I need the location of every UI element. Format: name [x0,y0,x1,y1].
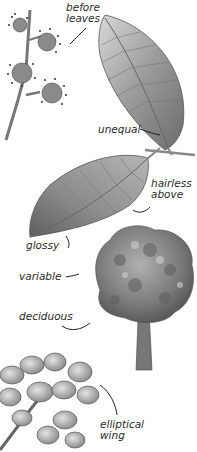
label-deciduous: deciduous [19,311,73,322]
tree-drawing [96,226,194,370]
fruit-cluster-drawing [0,353,99,450]
elm-illustration: before leaves unequal hairless above glo… [0,0,197,452]
illustration-artwork [0,0,197,452]
label-glossy: glossy [26,240,59,251]
lower-leaf-drawing [30,148,160,237]
label-elliptical-wing: elliptical wing [100,419,144,441]
label-before-leaves: before leaves [66,2,100,24]
label-variable: variable [19,271,61,282]
label-unequal: unequal [98,124,140,135]
label-hairless-above: hairless above [151,178,192,200]
flower-twig-drawing [6,10,67,140]
